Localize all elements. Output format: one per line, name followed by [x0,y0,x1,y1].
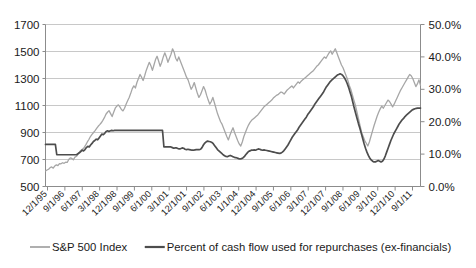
legend-label-0: S&P 500 Index [52,241,128,253]
y-axis-tick-label: 700 [20,154,39,166]
y-axis-tick-label: 900 [20,127,39,139]
chart-container: 5007009001100130015001700 0.0%10.0%20.0%… [0,0,476,268]
y2-axis-tick-label: 10.0% [429,148,462,160]
y2-axis-tick-label: 20.0% [429,116,462,128]
y-axis-tick-label: 1500 [14,46,40,58]
y-axis-tick-label: 1100 [15,100,40,112]
y-axis-tick-label: 1700 [14,19,40,31]
y2-axis-tick-label: 50.0% [429,19,462,31]
chart-background [0,0,476,268]
y-axis-tick-label: 500 [20,181,39,193]
y2-axis-tick-label: 30.0% [429,83,462,95]
legend-label-1: Percent of cash flow used for repurchase… [167,241,452,253]
chart-legend: S&P 500 IndexPercent of cash flow used f… [30,241,451,253]
y2-axis-tick-label: 0.0% [429,181,455,193]
y-axis-tick-label: 1300 [14,73,40,85]
y2-axis-tick-label: 40.0% [429,51,462,63]
chart-svg: 5007009001100130015001700 0.0%10.0%20.0%… [0,0,476,268]
